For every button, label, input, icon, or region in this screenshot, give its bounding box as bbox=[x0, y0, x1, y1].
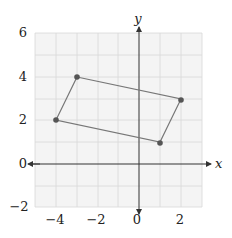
y-tick: 4 bbox=[19, 69, 27, 84]
chart: y x 6 4 2 0 −2 −4 −2 0 2 bbox=[0, 0, 232, 238]
x-tick: 0 bbox=[133, 212, 141, 227]
x-tick: −2 bbox=[86, 212, 105, 227]
x-axis-label: x bbox=[215, 156, 223, 171]
y-tick: 2 bbox=[19, 112, 27, 127]
y-tick: 6 bbox=[19, 25, 27, 40]
vertex-d bbox=[53, 117, 59, 123]
vertex-a bbox=[74, 74, 80, 80]
x-tick: −4 bbox=[45, 212, 64, 227]
y-tick: −2 bbox=[9, 199, 28, 214]
y-axis-label: y bbox=[133, 11, 142, 26]
x-tick: 2 bbox=[176, 212, 184, 227]
y-tick: 0 bbox=[19, 156, 27, 171]
vertex-b bbox=[178, 97, 184, 103]
vertex-c bbox=[157, 140, 163, 146]
